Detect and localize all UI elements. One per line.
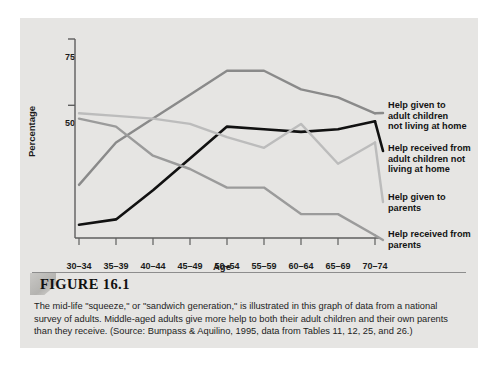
figure-number-label: FIGURE 16.1 [40,276,130,293]
caption-divider [32,272,466,273]
figure-panel: Percentage Age 75 50 30–34 35–39 40–44 4… [20,18,478,348]
series-label-help-given-adult-children: Help given to adult children not living … [388,100,467,132]
series-lines [79,71,383,240]
series-label-help-given-parents: Help given to parents [388,192,446,213]
line-chart: Percentage Age 75 50 30–34 35–39 40–44 4… [20,18,478,268]
series-label-help-received-adult-children: Help received from adult children not li… [388,143,471,175]
figure-root: Percentage Age 75 50 30–34 35–39 40–44 4… [0,0,495,370]
series-label-help-received-parents: Help received from parents [388,229,471,250]
figure-caption-block: FIGURE 16.1 The mid-life "squeeze," or "… [20,268,478,348]
figure-caption-text: The mid-life "squeeze," or "sandwich gen… [34,300,466,338]
